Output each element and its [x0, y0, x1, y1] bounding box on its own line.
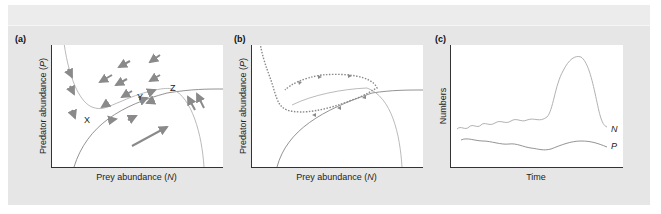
panel-c-xlabel: Time — [450, 172, 622, 182]
panel-b-ylabel: Predator abundance (P) — [238, 51, 248, 161]
phase-plane-diagram-a: X Y Z — [52, 45, 223, 167]
point-y-label: Y — [137, 92, 143, 102]
panel-a-plot: X Y Z — [51, 45, 223, 168]
point-x-label: X — [84, 115, 90, 125]
trajectory-arrowheads — [298, 74, 366, 117]
direction-field-arrows — [68, 55, 204, 146]
limit-cycle-diagram-b — [252, 45, 423, 167]
panel-a-xlabel: Prey abundance (N) — [51, 172, 222, 182]
prey-series-n — [457, 57, 607, 129]
panel-a-label: (a) — [15, 34, 26, 44]
panel-c-label: (c) — [435, 34, 446, 44]
prey-isocline — [64, 45, 204, 167]
time-series-c: N P — [451, 45, 623, 167]
panel-c-plot: N P — [450, 45, 623, 168]
panel-b-xlabel: Prey abundance (N) — [251, 172, 422, 182]
predator-series-p — [461, 139, 607, 150]
point-z-label: Z — [170, 83, 176, 93]
header-strip — [8, 5, 650, 25]
series-n-label: N — [611, 124, 618, 134]
panel-c-ylabel: Numbers — [438, 81, 448, 131]
panel-b-label: (b) — [234, 34, 246, 44]
prey-isocline — [292, 88, 402, 167]
series-p-label: P — [611, 141, 617, 151]
panel-b-plot — [251, 45, 423, 168]
panel-a-ylabel: Predator abundance (P) — [38, 51, 48, 161]
divider — [8, 25, 650, 26]
